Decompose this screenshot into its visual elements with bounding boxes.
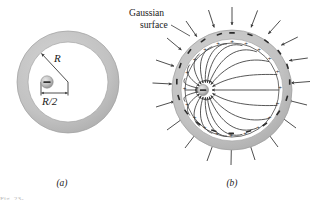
cropped-caption-strip: Fig. 23- [0, 195, 317, 200]
charge-minus-sign [200, 89, 206, 91]
gaussian-surface-annotation: Gaussian surface [129, 7, 190, 36]
physics-figure: R R/2 (a) [0, 0, 317, 200]
figure-svg: R R/2 (a) [0, 0, 317, 200]
gaussian-leader-line [171, 25, 190, 36]
gaussian-label-line2: surface [140, 19, 168, 30]
outer-minus [176, 79, 178, 85]
gaussian-label-line1: Gaussian [129, 7, 164, 18]
radius-label: R [53, 52, 61, 64]
offset-label: R/2 [41, 95, 58, 107]
inner-plus: + [276, 68, 280, 75]
inner-plus: + [257, 46, 261, 53]
inner-plus: + [276, 100, 280, 107]
panel-a-caption: (a) [56, 178, 67, 189]
inner-plus: + [256, 124, 260, 131]
outer-minus [289, 79, 291, 85]
panel-b-point-charge [198, 85, 209, 96]
panel-b: + + + + + + + + + + + + + + + + + + + + [129, 7, 310, 189]
inner-plus: + [183, 85, 187, 92]
inner-plus: + [268, 114, 272, 121]
outer-minus [229, 32, 235, 34]
panel-a: R R/2 (a) [17, 31, 119, 189]
inner-plus: + [268, 55, 272, 62]
inner-plus: + [230, 38, 234, 45]
panel-a-point-charge [41, 76, 53, 88]
panel-b-caption: (b) [226, 178, 237, 189]
inner-plus: + [244, 40, 248, 47]
charge-minus-sign [43, 81, 50, 83]
